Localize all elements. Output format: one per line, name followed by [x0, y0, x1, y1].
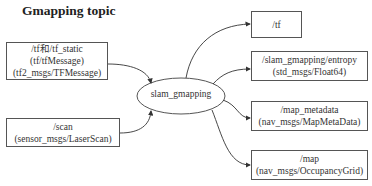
output-node-entropy: /slam_gmapping/entropy (std_msgs/Float64…	[251, 51, 368, 81]
node-line: (tf/tfMessage)	[30, 55, 84, 67]
edge-scan-to-gmapping	[120, 111, 151, 133]
center-node-label: slam_gmapping	[137, 89, 225, 99]
node-line: /slam_gmapping/entropy	[262, 54, 357, 66]
edge-gmapping-to-metadata	[223, 100, 250, 118]
edge-gmapping-to-entropy	[213, 69, 250, 84]
node-line: (nav_msgs/OccupancyGrid)	[256, 165, 363, 177]
node-line: /tf	[272, 19, 280, 31]
output-node-map: /map (nav_msgs/OccupancyGrid)	[251, 150, 368, 180]
input-node-scan: /scan (sensor_msgs/LaserScan)	[6, 118, 120, 147]
edge-gmapping-to-map	[212, 110, 250, 165]
node-line: (sensor_msgs/LaserScan)	[14, 133, 111, 145]
node-line: (tf2_msgs/TFMessage)	[13, 67, 101, 79]
output-node-tf: /tf	[251, 11, 302, 38]
output-node-map-metadata: /map_metadata (nav_msgs/MapMetaData)	[251, 101, 368, 131]
node-line: /map_metadata	[280, 104, 338, 116]
node-line: /map	[300, 153, 319, 165]
edge-tf-to-gmapping	[108, 64, 151, 83]
node-line: (nav_msgs/MapMetaData)	[259, 116, 361, 128]
node-line: (std_msgs/Float64)	[273, 66, 346, 78]
input-node-tf: /tf和/tf_static (tf/tfMessage) (tf2_msgs/…	[6, 42, 108, 80]
node-line: /scan	[53, 121, 73, 133]
node-line: /tf和/tf_static	[31, 43, 83, 55]
